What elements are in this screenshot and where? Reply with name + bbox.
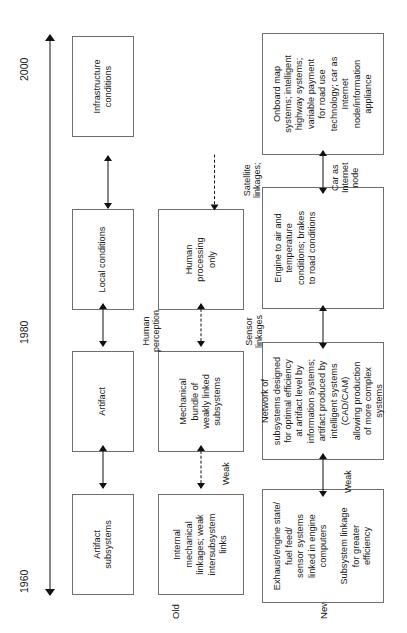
arrow-head-down — [99, 341, 107, 347]
connector-new-sensor-linkages — [317, 306, 329, 348]
box-old-human-processing: Human processing only — [158, 209, 244, 310]
timeline-arrowhead-right — [45, 34, 55, 41]
box-text: Internal mechanical linkages; weak inter… — [172, 514, 229, 576]
arrow-head-up — [99, 445, 107, 451]
connector-old-to-infrastructure — [209, 155, 221, 210]
diagram-canvas: 1960 1980 2000 Artifact subsystems Artif… — [0, 0, 407, 633]
arrow-head-up — [319, 150, 327, 156]
arrow-head-down — [104, 203, 112, 209]
connector-old-weak-label: Weak — [221, 462, 232, 485]
arrow-shaft — [108, 156, 109, 208]
timeline-tick-1980: 1980 — [18, 321, 30, 344]
arrow-head-down — [197, 341, 205, 347]
box-text: Human processing only — [184, 237, 218, 281]
box-artifact: Artifact — [72, 351, 134, 452]
box-text: Local conditions — [97, 227, 108, 293]
arrow-shaft — [323, 151, 324, 193]
arrow-shaft — [103, 304, 104, 346]
box-text: Infrastructure conditions — [92, 59, 115, 113]
arrow-head-up — [197, 445, 205, 451]
connector-old-weak — [195, 446, 207, 488]
arrow-head-up — [197, 303, 205, 309]
arrow-head-down — [319, 491, 327, 497]
box-local-conditions: Local conditions — [72, 209, 134, 310]
row-label-old: Old — [170, 604, 181, 619]
box-text: Artifact subsystems — [92, 520, 115, 569]
connector-new-weak — [317, 454, 329, 496]
timeline-tick-2000: 2000 — [18, 58, 30, 81]
connector-old-human-perception-label: Human perception — [141, 310, 161, 352]
box-text: Onboard map systems; intelligent highway… — [272, 55, 375, 133]
box-text: Network of subsystems designed for optim… — [260, 357, 385, 445]
box-new-exhaust-engine-state: Exhaust/engine state/ fuel feed/ sensor … — [262, 489, 384, 603]
box-infrastructure-conditions: Infrastructure conditions — [72, 36, 134, 137]
connector-old-human-perception — [195, 304, 207, 346]
timeline-axis — [44, 35, 56, 595]
box-new-engine-to-air: Engine to air and temperature conditions… — [262, 187, 384, 309]
box-new-onboard-map: Onboard map systems; intelligent highway… — [262, 33, 384, 155]
connector-new-satellite-linkages-label: Satellite linkages; — [242, 162, 262, 198]
arrow-head-up — [104, 155, 112, 161]
rotated-diagram-root: 1960 1980 2000 Artifact subsystems Artif… — [0, 0, 407, 633]
arrow-head-down — [211, 205, 219, 211]
box-old-mechanical-bundle: Mechanical bundle of weakly linked subsy… — [158, 351, 244, 452]
box-artifact-subsystems: Artifact subsystems — [72, 494, 134, 595]
connector-new-weak-label: Weak — [343, 470, 354, 493]
arrow-head-up — [319, 453, 327, 459]
arrow-head-down — [197, 483, 205, 489]
connector-new-satellite-linkages — [317, 151, 329, 193]
connector-artifact-local — [97, 304, 109, 346]
timeline-shaft — [50, 35, 51, 595]
connector-new-car-as-internet-node-label: Car as Internet node — [330, 162, 360, 193]
arrow-shaft — [323, 306, 324, 348]
arrow-head-down — [319, 188, 327, 194]
connector-subsystems-artifact — [97, 446, 109, 488]
box-text: Exhaust/engine state/ fuel feed/ sensor … — [272, 502, 329, 590]
timeline-tick-1960: 1960 — [18, 570, 30, 593]
arrow-head-down — [99, 483, 107, 489]
box-text: Subsystem linkage for greater efficiency — [339, 507, 373, 584]
arrow-head-down — [319, 343, 327, 349]
arrow-head-up — [99, 303, 107, 309]
connector-new-sensor-linkages-label: Sensor linkages — [244, 315, 264, 348]
arrow-shaft — [201, 446, 202, 488]
connector-local-infrastructure — [102, 156, 114, 208]
box-old-internal-mechanical: Internal mechanical linkages; weak inter… — [158, 494, 244, 595]
arrow-shaft — [201, 304, 202, 346]
timeline-arrowhead-left — [45, 589, 55, 596]
box-new-network-of-subsystems: Network of subsystems designed for optim… — [262, 342, 384, 460]
arrow-shaft — [214, 155, 215, 210]
arrow-shaft — [323, 454, 324, 496]
arrow-head-up — [319, 305, 327, 311]
box-text: Mechanical bundle of weakly linked subsy… — [178, 374, 224, 429]
box-text: Engine to air and temperature conditions… — [273, 211, 319, 285]
arrow-shaft — [103, 446, 104, 488]
box-text: Artifact — [97, 387, 108, 416]
